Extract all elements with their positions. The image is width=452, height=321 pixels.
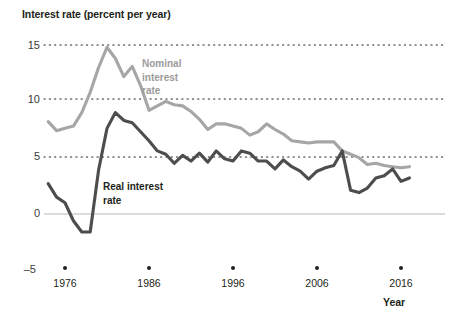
xtick-label-2016: 2016 [379, 277, 423, 289]
xtick-label-1976: 1976 [43, 277, 87, 289]
xtick-label-1986: 1986 [127, 277, 171, 289]
chart-container: Interest rate (percent per year) 15 10 5… [0, 0, 452, 321]
series-label-nominal-line2: interest [142, 71, 181, 85]
xtick-dot-1976 [63, 266, 67, 270]
series-label-nominal-line3: rate [142, 84, 181, 98]
series-label-nominal-line1: Nominal [142, 57, 181, 71]
x-axis-title: Year [383, 296, 405, 308]
xtick-dot-2016 [399, 266, 403, 270]
xtick-label-2006: 2006 [295, 277, 339, 289]
series-label-real-line1: Real interest [103, 180, 163, 194]
series-label-nominal: Nominal interest rate [142, 57, 181, 98]
plot-area [0, 0, 452, 321]
xtick-dot-1996 [231, 266, 235, 270]
xtick-label-1996: 1996 [211, 277, 255, 289]
xtick-dot-1986 [147, 266, 151, 270]
xtick-dot-2006 [315, 266, 319, 270]
series-label-real-line2: rate [103, 194, 163, 208]
series-label-real: Real interest rate [103, 180, 163, 207]
